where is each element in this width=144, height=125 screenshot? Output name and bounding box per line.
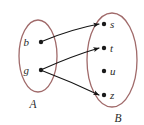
set-a-ellipse — [19, 20, 57, 92]
node-dot-t — [102, 46, 106, 50]
node-label-g: g — [24, 64, 30, 76]
mapping-diagram-canvas: b g s t u z A B — [0, 0, 144, 125]
set-label-a: A — [28, 98, 37, 110]
node-label-t: t — [110, 42, 114, 54]
node-dot-u — [102, 69, 106, 73]
set-label-b: B — [114, 112, 121, 124]
mapping-diagram: b g s t u z A B — [0, 0, 144, 125]
node-label-b: b — [24, 36, 30, 48]
node-dot-z — [102, 93, 106, 97]
node-label-s: s — [110, 18, 114, 30]
node-dot-b — [39, 40, 43, 44]
node-label-z: z — [109, 89, 115, 101]
arrow-g-to-t — [43, 48, 99, 69]
arrow-b-to-s — [43, 24, 99, 41]
node-label-u: u — [110, 65, 116, 77]
node-dot-s — [102, 22, 106, 26]
node-dot-g — [39, 68, 43, 72]
